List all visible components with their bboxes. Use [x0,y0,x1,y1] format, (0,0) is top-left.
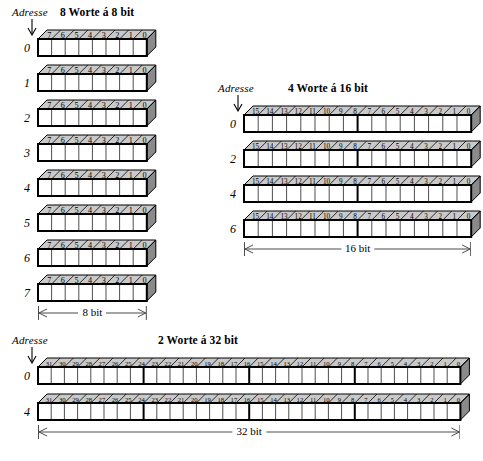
svg-text:28: 28 [85,360,92,367]
address-value: 4 [12,182,30,194]
address-value: 2 [218,153,236,165]
svg-text:22: 22 [165,360,172,367]
svg-text:1: 1 [443,396,446,403]
group-title: 2 Worte á 32 bit [158,334,238,346]
svg-text:31: 31 [46,360,53,367]
svg-text:30: 30 [59,360,66,367]
svg-text:26: 26 [112,360,119,367]
svg-text:16: 16 [244,396,251,403]
svg-text:31: 31 [46,396,53,403]
memory-word-bar: 76543210 [38,135,159,164]
svg-text:19: 19 [204,396,211,403]
svg-text:1: 1 [443,360,446,367]
dimension-label: 8 bit [78,305,106,319]
dimension-words-32bit: 32 bit [38,425,460,441]
address-value: 0 [218,118,236,130]
svg-text:20: 20 [191,360,198,367]
svg-text:2: 2 [430,396,433,403]
svg-text:25: 25 [125,396,132,403]
svg-text:16: 16 [244,360,251,367]
memory-word-bar: 1514131211109876543210 [244,176,483,205]
memory-word-bar: 1514131211109876543210 [244,141,483,170]
svg-text:14: 14 [270,396,277,403]
svg-text:27: 27 [99,360,106,367]
memory-word-bar: 76543210 [38,205,159,234]
svg-text:23: 23 [151,360,158,367]
memory-word-bar: 76543210 [38,240,159,269]
svg-text:29: 29 [72,396,79,403]
memory-word-bar: 76543210 [38,100,159,129]
svg-text:11: 11 [310,360,316,367]
dimension-label: 32 bit [233,424,266,438]
svg-text:17: 17 [231,360,238,367]
svg-text:24: 24 [138,396,145,403]
svg-text:14: 14 [270,360,277,367]
svg-text:25: 25 [125,360,132,367]
address-value: 4 [218,188,236,200]
svg-text:2: 2 [430,360,433,367]
group-title: 8 Worte á 8 bit [60,6,134,18]
address-column-label: Adresse [218,82,254,94]
address-value: 2 [12,112,30,124]
address-value: 6 [218,223,236,235]
svg-text:10: 10 [323,396,330,403]
memory-word-bar: 3130292827262524232221201918171615141312… [38,394,472,423]
svg-text:19: 19 [204,360,211,367]
address-value: 7 [12,287,30,299]
svg-text:15: 15 [257,360,264,367]
svg-text:20: 20 [191,396,198,403]
group-title: 4 Worte á 16 bit [288,82,368,94]
svg-text:27: 27 [99,396,106,403]
address-down-arrow-icon [232,95,244,112]
svg-text:21: 21 [178,396,185,403]
memory-word-bar: 76543210 [38,275,159,304]
memory-word-bar: 76543210 [38,65,159,94]
address-value: 1 [12,77,30,89]
svg-text:10: 10 [323,360,330,367]
address-value: 6 [12,252,30,264]
address-value: 0 [12,370,30,382]
memory-word-bar: 76543210 [38,170,159,199]
memory-word-bar: 76543210 [38,30,159,59]
svg-text:24: 24 [138,360,145,367]
svg-text:18: 18 [217,360,224,367]
dimension-words-8bit: 8 bit [38,306,147,322]
address-down-arrow-icon [26,19,38,36]
svg-text:18: 18 [217,396,224,403]
svg-text:30: 30 [59,396,66,403]
svg-text:12: 12 [297,360,304,367]
memory-word-bar: 3130292827262524232221201918171615141312… [38,358,472,387]
address-value: 5 [12,217,30,229]
address-value: 0 [12,42,30,54]
memory-word-bar: 1514131211109876543210 [244,106,483,135]
svg-text:26: 26 [112,396,119,403]
svg-text:29: 29 [72,360,79,367]
svg-text:12: 12 [297,396,304,403]
address-value: 4 [12,406,30,418]
svg-text:22: 22 [165,396,172,403]
svg-text:13: 13 [283,360,290,367]
memory-word-bar: 1514131211109876543210 [244,211,483,240]
svg-text:13: 13 [283,396,290,403]
svg-text:15: 15 [257,396,264,403]
dimension-words-16bit: 16 bit [244,242,471,258]
svg-text:21: 21 [178,360,185,367]
svg-text:11: 11 [310,396,316,403]
address-column-label: Adresse [12,334,48,346]
svg-text:17: 17 [231,396,238,403]
address-column-label: Adresse [12,6,48,18]
dimension-label: 16 bit [341,241,374,255]
svg-text:28: 28 [85,396,92,403]
address-down-arrow-icon [26,347,38,364]
svg-text:23: 23 [151,396,158,403]
address-value: 3 [12,147,30,159]
